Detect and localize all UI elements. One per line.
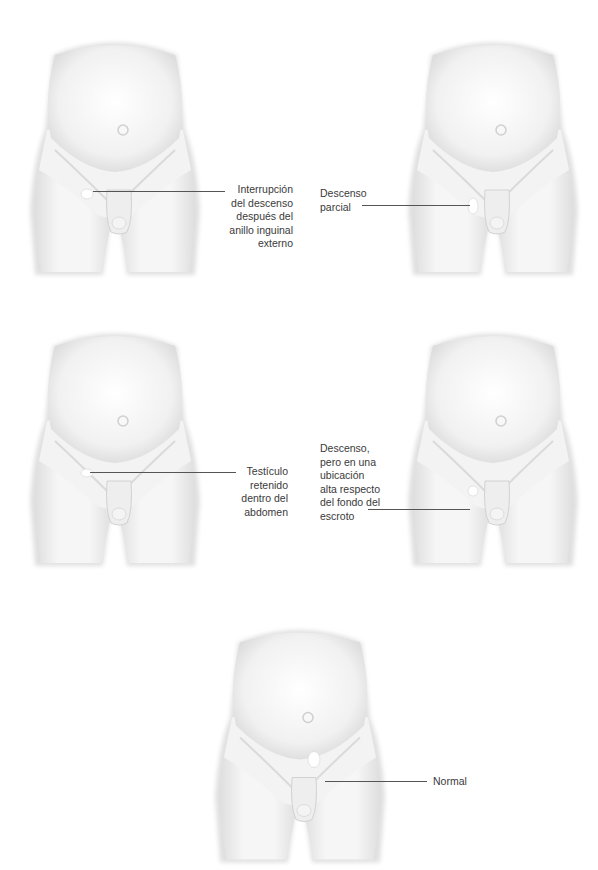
testis-marker — [468, 198, 478, 214]
testis-marker — [81, 469, 93, 477]
label-middle-right: Descenso, pero en una ubicación alta res… — [320, 442, 410, 523]
leader-line-middle-left — [90, 472, 236, 473]
label-top-right: Descenso parcial — [320, 187, 400, 214]
label-bottom-center: Normal — [433, 775, 493, 789]
torso-illustration-top-left — [15, 5, 215, 285]
testis-marker — [81, 189, 93, 199]
torso-illustration-middle-right — [393, 296, 593, 576]
testis-marker — [468, 486, 478, 496]
torso-illustration-bottom-center — [200, 595, 400, 870]
testis-marker — [308, 752, 320, 768]
label-middle-left: Testículo retenido dentro del abdomen — [220, 465, 288, 519]
torso-illustration-top-right — [393, 5, 593, 285]
torso-illustration-middle-left — [15, 296, 215, 576]
leader-line-top-left — [93, 191, 225, 192]
leader-line-bottom-center — [325, 781, 427, 782]
label-top-left: Interrupción del descenso después del an… — [210, 183, 293, 251]
